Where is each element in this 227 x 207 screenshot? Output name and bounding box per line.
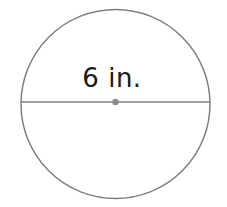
circle-diagram-figure: 6 in.: [0, 0, 227, 207]
diameter-measurement-label: 6 in.: [82, 63, 141, 93]
diagram-canvas: 6 in.: [0, 0, 227, 207]
center-point-dot: [112, 99, 118, 105]
